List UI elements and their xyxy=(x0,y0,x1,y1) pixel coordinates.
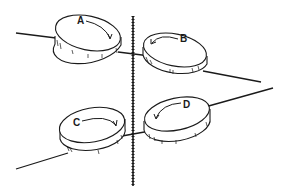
disk-d-label: D xyxy=(183,99,190,110)
disk-d: D xyxy=(141,91,212,144)
disk-c-label: C xyxy=(73,117,80,128)
diagram-canvas: A B C xyxy=(0,0,288,196)
disk-c: C xyxy=(57,103,128,154)
disk-b-label: B xyxy=(180,33,187,44)
disk-a: A xyxy=(52,10,124,64)
disk-b: B xyxy=(140,28,209,74)
disk-diagram: A B C xyxy=(0,0,288,196)
disk-a-label: A xyxy=(77,15,84,26)
